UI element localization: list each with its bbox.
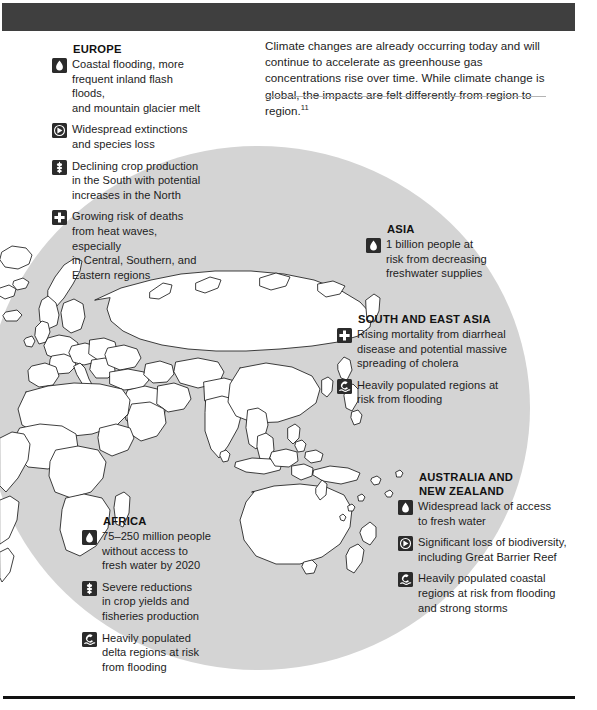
region-block-africa: AFRICA 75–250 million people without acc…: [82, 514, 247, 674]
flood-wave-icon: [337, 379, 352, 394]
flood-wave-icon: [398, 572, 413, 587]
health-cross-icon: [52, 210, 67, 225]
impact-text: Heavily populated delta regions at risk …: [102, 631, 199, 675]
biodiversity-icon: [398, 536, 413, 551]
impact-text: Heavily populated coastal regions at ris…: [418, 571, 556, 615]
impact-text: Severe reductions in crop yields and fis…: [102, 580, 199, 624]
region-title-australia-and-new-zealand: AUSTRALIA AND NEW ZEALAND: [398, 470, 583, 498]
region-block-south-and-east-asia: SOUTH AND EAST ASIA Rising mortality fro…: [337, 312, 537, 407]
impact-text: Growing risk of deaths from heat waves, …: [72, 209, 202, 282]
impact-item: Heavily populated coastal regions at ris…: [398, 571, 583, 615]
impact-item: Widespread extinctions and species loss: [52, 122, 202, 151]
impact-item: 1 billion people at risk from decreasing…: [366, 237, 516, 281]
region-title-asia: ASIA: [366, 222, 516, 236]
intro-paragraph: Climate changes are already occurring to…: [265, 38, 553, 119]
water-drop-icon: [398, 500, 413, 515]
impact-text: 75–250 million people without access to …: [102, 529, 211, 573]
impact-text: Significant loss of biodiversity, includ…: [418, 535, 567, 564]
impact-text: Coastal flooding, more frequent inland f…: [72, 57, 202, 115]
impact-item: Severe reductions in crop yields and fis…: [82, 580, 247, 624]
crop-wheat-icon: [82, 581, 97, 596]
region-block-asia: ASIA 1 billion people at risk from decre…: [366, 222, 516, 281]
region-title-south-and-east-asia: SOUTH AND EAST ASIA: [337, 312, 537, 326]
impact-text: Declining crop production in the South w…: [72, 159, 200, 203]
impact-text: Rising mortality from diarrheal disease …: [357, 327, 507, 371]
impact-text: Widespread extinctions and species loss: [72, 122, 188, 151]
intro-footnote-marker: 11: [301, 103, 309, 112]
impact-item: Rising mortality from diarrheal disease …: [337, 327, 537, 371]
crop-wheat-icon: [52, 160, 67, 175]
impact-item: 75–250 million people without access to …: [82, 529, 247, 573]
flood-wave-icon: [82, 632, 97, 647]
impact-item: Significant loss of biodiversity, includ…: [398, 535, 583, 564]
health-cross-icon: [337, 328, 352, 343]
region-title-europe: EUROPE: [52, 42, 202, 56]
impact-item: Growing risk of deaths from heat waves, …: [52, 209, 202, 282]
impact-item: Declining crop production in the South w…: [52, 159, 202, 203]
water-drop-icon: [366, 238, 381, 253]
impact-text: Widespread lack of access to fresh water: [418, 499, 551, 528]
region-block-europe: EUROPE Coastal flooding, more frequent i…: [52, 42, 202, 282]
page-footer-rule: [3, 696, 575, 699]
impact-item: Coastal flooding, more frequent inland f…: [52, 57, 202, 115]
impact-item: Heavily populated delta regions at risk …: [82, 631, 247, 675]
biodiversity-icon: [52, 123, 67, 138]
impact-item: Widespread lack of access to fresh water: [398, 499, 583, 528]
impact-text: 1 billion people at risk from decreasing…: [386, 237, 487, 281]
impact-item: Heavily populated regions at risk from f…: [337, 378, 537, 407]
water-drop-icon: [52, 58, 67, 73]
region-block-australia-and-new-zealand: AUSTRALIA AND NEW ZEALAND Widespread lac…: [398, 470, 583, 615]
impact-text: Heavily populated regions at risk from f…: [357, 378, 498, 407]
intro-divider: [265, 96, 546, 97]
region-title-africa: AFRICA: [82, 514, 247, 528]
water-drop-icon: [82, 530, 97, 545]
